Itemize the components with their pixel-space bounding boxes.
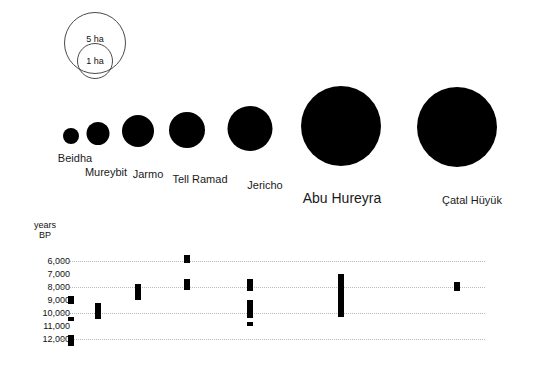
bar-beidha: [68, 335, 74, 346]
bar-beidha: [68, 296, 74, 304]
bar-mureybit: [95, 303, 101, 319]
size-scale-legend: 5 ha 1 ha: [58, 10, 132, 80]
site-circle: [63, 128, 79, 144]
site-label: Mureybit: [85, 166, 127, 178]
bar-abu-hureyra: [338, 274, 344, 317]
gridline-10000: [55, 313, 485, 314]
site-circle: [417, 87, 497, 167]
site-size-circles: Beidha Mureybit Jarmo Tell Ramad Jericho…: [0, 86, 541, 216]
site-circle: [301, 86, 381, 166]
chronology-chart: years BP 6,000 7,000 8,000 9,000 10,000 …: [0, 218, 541, 368]
settlement-size-and-chronology-figure: 5 ha 1 ha Beidha Mureybit Jarmo Tell Ram…: [0, 0, 541, 381]
site-label: Beidha: [58, 152, 92, 164]
gridline-12000: [55, 339, 485, 340]
bar-jericho: [247, 279, 253, 291]
legend-circle-1ha: 1 ha: [77, 43, 113, 79]
site-label: Abu Hureyra: [303, 190, 382, 206]
site-label: Jarmo: [133, 168, 164, 180]
site-label: Çatal Hüyük: [442, 194, 502, 206]
site-circle: [122, 115, 154, 147]
gridline-6000: [55, 261, 485, 262]
bar-jericho: [247, 322, 253, 326]
bar-catal-huyuk: [454, 282, 460, 291]
legend-inner-label: 1 ha: [78, 57, 112, 66]
gridline-8000: [55, 287, 485, 288]
site-circle: [87, 122, 110, 145]
site-circle: [169, 112, 205, 148]
chart-plot-area: [55, 218, 485, 368]
bar-tell-ramad: [184, 255, 190, 263]
site-label: Jericho: [247, 179, 282, 191]
bar-beidha: [68, 317, 74, 321]
bar-jericho: [247, 300, 253, 318]
site-circle: [228, 106, 273, 151]
site-label: Tell Ramad: [172, 173, 227, 185]
bar-tell-ramad: [184, 279, 190, 290]
bar-jarmo: [135, 284, 141, 300]
